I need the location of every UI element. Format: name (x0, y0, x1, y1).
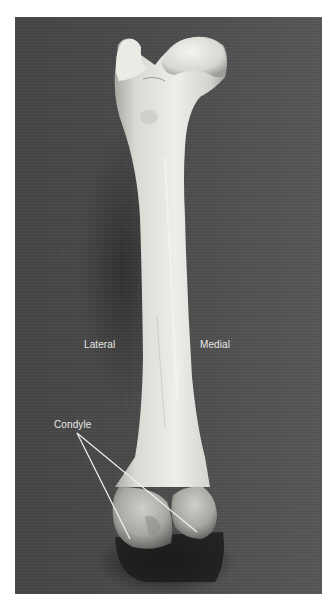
femur-bone (15, 17, 322, 594)
label-lateral: Lateral (84, 339, 115, 350)
label-medial: Medial (200, 339, 230, 350)
femur-photograph (15, 17, 322, 594)
label-condyle: Condyle (54, 419, 91, 430)
